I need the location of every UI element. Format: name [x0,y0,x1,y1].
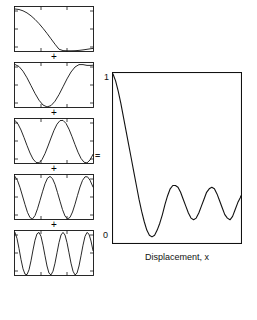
component-curve-4 [15,176,93,219]
result-curve [113,74,241,237]
component-panel-5 [14,230,94,276]
component-panel-4: + [14,174,94,230]
component-plot-3 [14,118,94,164]
plus-operator-2: + [14,108,94,118]
plus-operator-4: + [14,220,94,230]
component-panel-1: + [14,6,94,62]
ytick-label-bottom: 0 [103,231,108,240]
component-plot-4 [14,174,94,220]
component-curve-5 [15,232,93,275]
component-panel-stack: + + [14,6,94,306]
result-plot [112,72,242,244]
component-plot-1 [14,6,94,52]
plus-operator-3: + [14,164,94,174]
component-curve-1 [15,9,93,51]
component-panel-2: + [14,62,94,118]
component-plot-2 [14,62,94,108]
equals-operator: = [95,152,100,161]
ytick-label-top: 1 [104,73,109,82]
component-plot-5 [14,230,94,276]
component-panel-3: + [14,118,94,174]
plus-operator-1: + [14,52,94,62]
component-curve-3 [15,120,93,162]
x-axis-label: Displacement, x [112,252,242,262]
wave-superposition-figure: + + [0,0,257,320]
component-curve-2 [15,65,93,107]
